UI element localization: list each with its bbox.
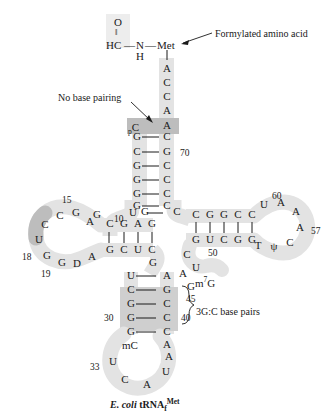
base-d-bot-3: U (131, 244, 145, 255)
label-19: 19 (41, 269, 51, 279)
base-acloop-u33: U (106, 356, 120, 367)
trna-cloverleaf-diagram: O ‖ HC — N — Met H Formylated amino acid… (0, 0, 329, 414)
base-tloop-u: U (257, 199, 271, 210)
base-var-m7g: m7G (195, 274, 215, 289)
label-70: 70 (180, 148, 190, 158)
caption-species: coli (122, 399, 137, 410)
label-40: 40 (181, 313, 191, 323)
base-t-top-3: G (217, 209, 231, 220)
base-var-c: C (180, 249, 194, 260)
base-acc-l1: G (130, 131, 144, 142)
label-33: 33 (90, 362, 100, 372)
base-acloop-c: C (118, 374, 132, 385)
base-acloop-u: U (159, 366, 173, 377)
base-acc-r3: C (160, 160, 174, 171)
base-ac-r1: A (160, 270, 174, 281)
base-t-top-5: C (245, 209, 259, 220)
base-d-top-3: A (131, 218, 145, 229)
base-dloop-u: U (32, 234, 46, 245)
base-t-bot-4: G (231, 234, 245, 245)
figure-caption: E. coli tRNAfMet (110, 396, 180, 414)
label-30: 30 (104, 313, 114, 323)
base-acc-l3: G (130, 160, 144, 171)
base-dloop-g18: G (40, 250, 54, 261)
base-tloop-c: C (283, 237, 297, 248)
base-t-bot-1: G (189, 234, 203, 245)
base-d-bot-1: G (103, 244, 117, 255)
base-junction-g: G (138, 206, 152, 217)
base-acc-r2: G (160, 146, 174, 157)
caption-trna: tRNA (137, 399, 165, 410)
base-d-g-below: G (146, 257, 160, 268)
base-acc-r4: C (160, 174, 174, 185)
label-50: 50 (208, 248, 218, 258)
m7g-g: G (207, 277, 215, 289)
base-dloop-c1: C (38, 219, 52, 230)
base-t-top-4: C (231, 209, 245, 220)
formylated-amino-acid-annotation: Formylated amino acid (215, 28, 308, 39)
base-a73: A (160, 105, 174, 116)
base-acc-l4: G (130, 174, 144, 185)
base-ac-l1: U (124, 270, 138, 281)
base-tloop-t: T (251, 240, 265, 251)
base-d-bot-2: C (117, 244, 131, 255)
caption-superscript: Met (167, 397, 180, 406)
base-acloop-a: A (140, 379, 154, 390)
base-tloop-psi: ψ (267, 241, 281, 252)
base-d-top-4: G (145, 218, 159, 229)
formyl-dash-1: — (124, 40, 135, 51)
base-t-top-1: C (189, 209, 203, 220)
formyl-H: H (136, 51, 144, 62)
base-t-top-2: G (203, 209, 217, 220)
formyl-double-bond: ‖ (115, 27, 118, 38)
base-var-a: A (176, 268, 190, 279)
base-c75: C (160, 77, 174, 88)
base-ac-r3: C (160, 298, 174, 309)
base-ac-l3: G (124, 298, 138, 309)
base-ac-l5: G (124, 326, 138, 337)
base-t-bot-2: U (203, 234, 217, 245)
base-dloop-g19: G (55, 257, 69, 268)
gc-base-pairs-annotation: 3G:C base pairs (196, 306, 260, 317)
caption-genus: E. (110, 399, 122, 410)
base-dloop-d: D (70, 258, 84, 269)
base-acc-l2: C (130, 146, 144, 157)
base-var-g: G (184, 281, 198, 292)
base-mc32: mC (122, 340, 138, 351)
label-10: 10 (114, 214, 124, 224)
label-15: 15 (62, 195, 72, 205)
formyl-HC: HC (106, 40, 121, 51)
no-base-pairing-annotation: No base pairing (58, 92, 121, 103)
mc-base: C (131, 339, 138, 351)
base-ac-l4: G (124, 312, 138, 323)
label-45: 45 (186, 294, 196, 304)
methionine-label: Met (157, 40, 175, 51)
base-ac-r4: C (160, 312, 174, 323)
label-18: 18 (22, 252, 32, 262)
base-ac-a: A (160, 339, 174, 350)
base-ac-r5: C (160, 326, 174, 337)
base-a76: A (160, 63, 174, 74)
base-t-bot-3: C (217, 234, 231, 245)
base-acc-r5: C (160, 188, 174, 199)
base-ac-l2: C (124, 284, 138, 295)
base-acloop-a36: A (162, 351, 176, 362)
arrow-formylated-head (181, 40, 189, 45)
base-ac-r2: G (160, 284, 174, 295)
base-acc-r1: C (160, 131, 174, 142)
base-tloop-a58: A (289, 206, 303, 217)
mc-prefix: m (122, 339, 131, 351)
label-60: 60 (272, 191, 282, 201)
base-dloop-a: A (83, 216, 97, 227)
base-dloop-c2: C (53, 210, 67, 221)
base-acc-l5: G (130, 188, 144, 199)
base-dloop-a20: A (85, 251, 99, 262)
base-var-u: U (189, 262, 203, 273)
base-tloop-a57: A (293, 222, 307, 233)
label-57: 57 (311, 226, 321, 236)
base-junction-c: C (170, 206, 184, 217)
formyl-dash-2: — (145, 40, 156, 51)
base-d-bot-4: C (145, 244, 159, 255)
base-dloop-g15: G (69, 207, 83, 218)
base-c74: C (160, 91, 174, 102)
